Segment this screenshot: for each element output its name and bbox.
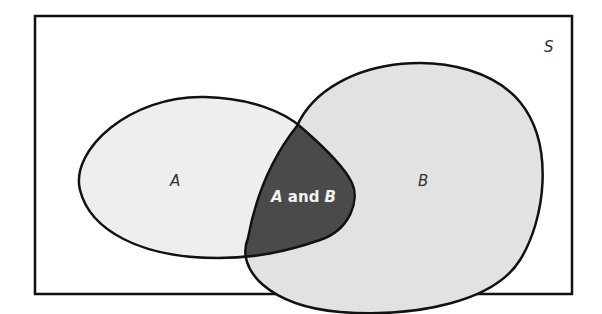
universe-label: S: [544, 38, 554, 56]
set-a-label: A: [169, 172, 180, 190]
set-b-label: B: [418, 172, 428, 190]
venn-diagram: S A B A and B: [0, 0, 602, 314]
intersection-label: A and B: [270, 188, 336, 206]
